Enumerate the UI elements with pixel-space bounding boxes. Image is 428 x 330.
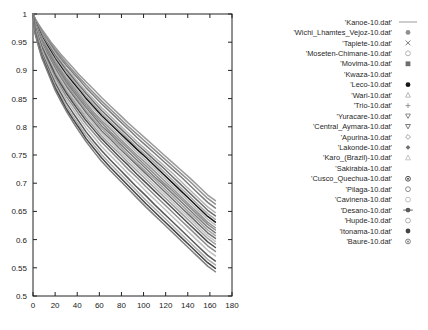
y-tick-label: 0.55 — [11, 264, 27, 273]
legend-item-label: 'Wichi_Lhamtes_Vejoz-10.dat' — [293, 28, 392, 37]
legend-marker — [406, 41, 411, 46]
legend-item-label: 'Pilaga-10.dat' — [346, 185, 393, 194]
legend-marker — [406, 61, 411, 66]
legend-item-label: 'Desano-10.dat' — [341, 206, 393, 215]
legend-item-label: 'Itonama-10.dat' — [339, 227, 392, 236]
series-line — [33, 14, 215, 201]
legend-item[interactable]: 'Hupde-10.dat' — [344, 216, 410, 225]
legend-item[interactable]: 'Cusco_Quechua-10.dat' — [311, 174, 410, 183]
legend-item-label: 'Lakonde-10.dat' — [338, 143, 393, 152]
legend-item[interactable]: 'Lakonde-10.dat' — [338, 143, 411, 152]
y-tick-label: 0.6 — [16, 236, 28, 245]
legend-item[interactable]: 'Trio-10.dat' — [354, 101, 411, 110]
x-tick-label: 120 — [159, 301, 173, 310]
legend-marker — [406, 197, 411, 202]
x-tick-label: 0 — [31, 301, 36, 310]
legend-item-label: 'Baure-10.dat' — [346, 237, 392, 246]
legend-marker — [406, 145, 411, 150]
x-tick-label: 140 — [181, 301, 195, 310]
legend-marker — [406, 92, 411, 97]
legend-marker — [406, 114, 411, 118]
legend-item-label: 'Sakirabia-10.dat' — [335, 164, 392, 173]
legend-item-label: 'Movima-10.dat' — [340, 59, 392, 68]
legend-item[interactable]: 'Leco-10.dat' — [350, 80, 410, 89]
legend-item-label: 'Cusco_Quechua-10.dat' — [311, 174, 392, 183]
legend-marker — [406, 187, 411, 192]
legend-marker — [406, 51, 411, 56]
x-tick-label: 40 — [73, 301, 82, 310]
legend-item[interactable]: 'Pilaga-10.dat' — [346, 185, 411, 194]
legend-marker — [406, 218, 411, 223]
legend-item-label: 'Apurina-10.dat' — [341, 133, 393, 142]
x-tick-label: 80 — [117, 301, 126, 310]
legend-item[interactable]: 'Wichi_Lhamtes_Vejoz-10.dat' — [293, 28, 410, 37]
legend-item-label: 'Wari-10.dat' — [351, 91, 392, 100]
legend-item-label: 'Central_Aymara-10.dat' — [313, 122, 393, 131]
legend-item[interactable]: 'Desano-10.dat' — [341, 206, 413, 215]
legend-item-label: 'Leco-10.dat' — [350, 80, 392, 89]
legend-item[interactable]: 'Sakirabia-10.dat' — [335, 164, 392, 173]
x-tick-label: 100 — [137, 301, 151, 310]
legend-item-label: 'Tapiete-10.dat' — [342, 39, 392, 48]
x-tick-label: 160 — [203, 301, 217, 310]
series-line — [33, 14, 215, 248]
y-tick-label: 0.65 — [11, 207, 27, 216]
legend-item[interactable]: 'Baure-10.dat' — [346, 237, 410, 246]
legend-item[interactable]: 'Movima-10.dat' — [340, 59, 410, 68]
legend-item[interactable]: 'Tapiete-10.dat' — [342, 39, 410, 48]
legend-item[interactable]: 'Moseten-Chimane-10.dat' — [306, 49, 411, 58]
legend-item[interactable]: 'Kwaza-10.dat' — [344, 70, 393, 79]
legend-item[interactable]: 'Yuracare-10.dat' — [337, 112, 411, 121]
y-tick-label: 0.8 — [16, 123, 28, 132]
legend-item[interactable]: 'Karo_(Brazil)-10.dat' — [323, 153, 410, 162]
line-chart: 0.50.550.60.650.70.750.80.850.90.9510204… — [0, 0, 428, 330]
chart-figure: 0.50.550.60.650.70.750.80.850.90.9510204… — [0, 0, 428, 330]
legend-marker — [406, 30, 411, 35]
legend-marker — [406, 155, 411, 160]
series-line — [33, 14, 215, 268]
y-tick-label: 0.9 — [16, 66, 28, 75]
y-tick-label: 0.7 — [16, 179, 28, 188]
legend-item-label: 'Yuracare-10.dat' — [337, 112, 393, 121]
y-tick-label: 0.5 — [16, 292, 28, 301]
y-tick-label: 0.95 — [11, 38, 27, 47]
legend-item-label: 'Kanoe-10.dat' — [345, 18, 393, 27]
legend-item-label: 'Karo_(Brazil)-10.dat' — [323, 153, 393, 162]
y-tick-label: 1 — [23, 10, 28, 19]
legend-marker — [406, 135, 411, 140]
legend-item-label: 'Hupde-10.dat' — [344, 216, 392, 225]
legend-marker-dot — [407, 178, 409, 180]
legend-item[interactable]: 'Apurina-10.dat' — [341, 133, 411, 142]
data-series-group — [33, 14, 215, 272]
legend-marker-dot — [407, 240, 409, 242]
legend-marker — [406, 82, 411, 87]
legend-item-label: 'Moseten-Chimane-10.dat' — [306, 49, 393, 58]
x-tick-label: 180 — [225, 301, 239, 310]
legend-marker — [406, 229, 411, 234]
series-line — [33, 14, 215, 241]
legend: 'Kanoe-10.dat''Wichi_Lhamtes_Vejoz-10.da… — [293, 18, 417, 246]
legend-item[interactable]: 'Wari-10.dat' — [351, 91, 410, 100]
legend-item[interactable]: 'Cavinena-10.dat' — [335, 195, 410, 204]
legend-item[interactable]: 'Itonama-10.dat' — [339, 227, 410, 236]
legend-marker — [406, 125, 411, 129]
legend-item[interactable]: 'Kanoe-10.dat' — [345, 18, 417, 27]
y-tick-label: 0.75 — [11, 151, 27, 160]
x-tick-label: 60 — [95, 301, 104, 310]
legend-item-label: 'Cavinena-10.dat' — [335, 195, 393, 204]
legend-item[interactable]: 'Central_Aymara-10.dat' — [313, 122, 411, 131]
y-tick-label: 0.85 — [11, 95, 27, 104]
legend-item-label: 'Kwaza-10.dat' — [344, 70, 393, 79]
legend-marker — [406, 103, 411, 108]
x-tick-label: 20 — [51, 301, 60, 310]
legend-item-label: 'Trio-10.dat' — [354, 101, 393, 110]
